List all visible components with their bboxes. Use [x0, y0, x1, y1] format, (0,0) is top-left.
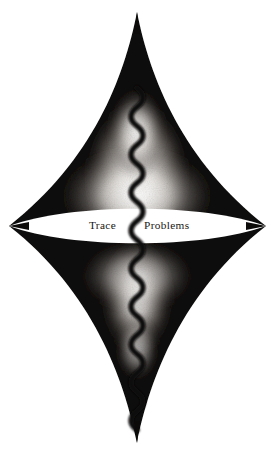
astroid-illustration — [0, 0, 275, 453]
artwork-canvas: Trace Problems — [0, 0, 275, 453]
